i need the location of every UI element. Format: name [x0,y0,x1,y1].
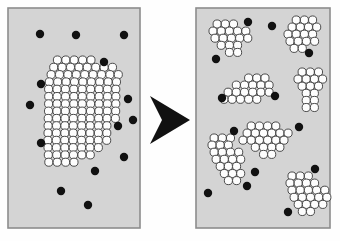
black-particle [124,95,132,103]
black-particle [268,22,276,30]
white-particle [62,158,70,166]
white-particle [87,78,95,86]
white-particle [70,158,78,166]
white-particle [112,78,120,86]
white-particle [306,207,314,215]
white-particle [225,48,233,56]
white-particle [70,78,78,86]
white-particle [94,144,102,152]
white-particle [268,150,276,158]
white-particle [70,56,78,64]
black-particle [114,122,122,130]
white-particle [217,41,225,49]
white-particle [298,44,306,52]
figure-root [0,0,340,241]
white-particle [251,143,259,151]
black-particle [305,49,313,57]
figure-canvas [0,0,340,241]
white-particle [62,56,70,64]
white-particle [239,136,247,144]
black-particle [212,55,220,63]
white-particle [54,78,62,86]
black-particle [243,182,251,190]
white-particle [234,48,242,56]
black-particle [91,167,99,175]
white-particle [79,56,87,64]
white-particle [45,78,53,86]
white-particle [236,95,244,103]
white-particle [78,151,86,159]
black-particle [271,92,279,100]
white-particle [114,71,122,79]
white-particle [53,56,61,64]
black-particle [72,31,80,39]
black-particle [129,116,137,124]
white-particle [103,136,111,144]
white-particle [111,114,119,122]
white-particle [290,44,298,52]
white-particle [228,95,236,103]
panel-after [196,8,331,228]
white-particle [64,71,72,79]
white-particle [311,37,319,45]
black-particle [37,80,45,88]
white-particle [245,95,253,103]
white-particle [310,103,318,111]
panel-before [8,8,140,228]
white-particle [47,71,55,79]
white-particle [96,78,104,86]
black-particle [251,168,259,176]
black-particle [120,153,128,161]
white-particle [253,95,261,103]
white-particle [53,158,61,166]
white-particle [104,78,112,86]
white-particle [79,78,87,86]
white-particle [72,71,80,79]
black-particle [218,94,226,102]
black-particle [230,127,238,135]
black-particle [84,201,92,209]
white-particle [81,71,89,79]
white-particle [276,143,284,151]
black-particle [244,18,252,26]
black-particle [100,58,108,66]
white-particle [55,71,63,79]
white-particle [224,177,232,185]
black-particle [311,165,319,173]
white-particle [87,56,95,64]
white-particle [302,103,310,111]
white-particle [89,71,97,79]
white-particle [233,177,241,185]
white-particle [45,158,53,166]
black-particle [26,101,34,109]
black-particle [120,31,128,39]
white-particle [259,150,267,158]
black-particle [37,139,45,147]
white-particle [298,207,306,215]
white-particle [106,71,114,79]
black-particle [204,189,212,197]
white-particle [62,78,70,86]
white-particle [319,200,327,208]
white-particle [97,71,105,79]
black-particle [284,208,292,216]
white-particle [86,151,94,159]
white-particle [244,34,252,42]
white-particle [211,34,219,42]
black-particle [295,123,303,131]
black-particle [57,187,65,195]
black-particle [36,30,44,38]
